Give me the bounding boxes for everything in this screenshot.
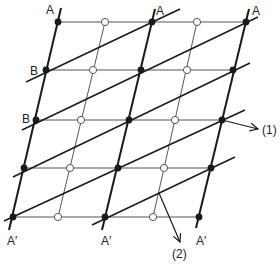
- point-label: B: [30, 64, 38, 78]
- point-label: A′: [101, 234, 112, 248]
- open-lattice-point: [89, 66, 96, 73]
- filled-lattice-point: [102, 214, 109, 221]
- direction-arrow-1: [222, 120, 258, 129]
- point-label: B: [22, 112, 30, 126]
- filled-lattice-point: [33, 117, 40, 124]
- diagonal-planes: [4, 9, 258, 225]
- open-lattice-point: [149, 213, 156, 220]
- filled-lattice-point: [149, 19, 156, 26]
- filled-lattice-point: [138, 67, 145, 74]
- filled-lattice-point: [208, 165, 215, 172]
- open-lattice-point: [193, 18, 200, 25]
- filled-lattice-point: [230, 67, 237, 74]
- open-lattice-point: [101, 18, 108, 25]
- filled-lattice-point: [21, 165, 28, 172]
- point-labels: AAABBA′A′A′: [7, 3, 260, 248]
- filled-lattice-point: [43, 67, 50, 74]
- open-lattice-point: [77, 116, 84, 123]
- open-lattice-point: [171, 116, 178, 123]
- filled-lattice-point: [10, 214, 17, 221]
- open-lattice-point: [183, 66, 190, 73]
- direction-label-1: (1): [262, 123, 277, 137]
- point-label: A′: [196, 234, 207, 248]
- diagonal-plane-line: [22, 17, 258, 130]
- filled-lattice-point: [196, 214, 203, 221]
- direction-label-2: (2): [172, 247, 187, 261]
- point-label: A′: [7, 234, 18, 248]
- point-label: A: [252, 4, 260, 18]
- point-label: A: [46, 3, 54, 17]
- open-lattice-point: [160, 164, 167, 171]
- open-lattice-point: [66, 164, 73, 171]
- filled-lattice-point: [115, 165, 122, 172]
- point-label: A: [156, 4, 164, 18]
- lattice-canvas: (1)(2) AAABBA′A′A′: [0, 0, 280, 264]
- filled-lattice-point: [243, 19, 250, 26]
- filled-lattice-point: [219, 117, 226, 124]
- filled-lattice-point: [126, 117, 133, 124]
- lattice-diagram: (1)(2) AAABBA′A′A′: [0, 0, 280, 264]
- filled-lattice-point: [55, 19, 62, 26]
- open-lattice-point: [54, 213, 61, 220]
